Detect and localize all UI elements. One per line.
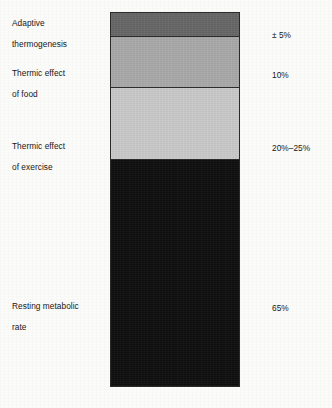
- segment-label-adaptive-thermogenesis: Adaptive thermogenesis: [12, 8, 106, 50]
- segment-value-adaptive-thermogenesis: ± 5%: [272, 30, 330, 40]
- segment-label-line1: Adaptive: [12, 18, 45, 28]
- segment-label-thermic-effect-of-exercise: Thermic effect of exercise: [12, 131, 106, 173]
- segment-label-line2: of exercise: [12, 162, 53, 172]
- segment-label-resting-metabolic-rate: Resting metabolic rate: [12, 291, 106, 333]
- energy-expenditure-figure: Adaptive thermogenesis Thermic effect of…: [0, 0, 332, 408]
- segment-label-line1: Thermic effect: [12, 68, 65, 78]
- segment-value-thermic-effect-of-food: 10%: [272, 70, 330, 80]
- segment-label-line1: Thermic effect: [12, 141, 65, 151]
- segment-label-line1: Resting metabolic: [12, 301, 79, 311]
- stacked-bar: [110, 12, 240, 387]
- segment-label-line2: of food: [12, 89, 38, 99]
- bar-segment-thermic-effect-of-food: [111, 36, 239, 87]
- bar-segment-adaptive-thermogenesis: [111, 13, 239, 36]
- segment-label-line2: thermogenesis: [12, 39, 67, 49]
- segment-value-thermic-effect-of-exercise: 20%–25%: [272, 143, 330, 153]
- segment-label-line2: rate: [12, 322, 27, 332]
- segment-label-thermic-effect-of-food: Thermic effect of food: [12, 58, 106, 100]
- segment-value-resting-metabolic-rate: 65%: [272, 303, 330, 313]
- bar-segment-resting-metabolic-rate: [111, 159, 239, 386]
- bar-segment-thermic-effect-of-exercise: [111, 87, 239, 159]
